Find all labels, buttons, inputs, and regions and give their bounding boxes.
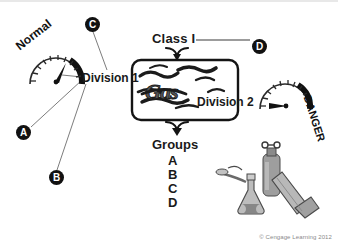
group-letter-a: A [168, 154, 177, 167]
groups-brace-arrow [172, 128, 182, 136]
erlenmeyer-flask-icon [216, 166, 264, 214]
group-letter-c: C [168, 182, 177, 195]
leader-lines [31, 29, 107, 170]
group-letter-b: B [168, 168, 177, 181]
hazardous-location-diagram: Gas [0, 0, 338, 245]
groups-brace-bottom [166, 122, 188, 129]
normal-gauge [30, 55, 82, 84]
label-class-i: Class I [152, 32, 195, 45]
leader-line-b [57, 84, 86, 170]
label-division-2: Division 2 [197, 96, 254, 108]
callout-marker-a[interactable]: A [16, 125, 31, 140]
normal-gauge-hub [54, 80, 59, 85]
danger-gauge [260, 80, 310, 109]
danger-gauge-hub [284, 104, 289, 109]
label-division-1: Division 1 [82, 72, 139, 84]
leader-line-c [92, 29, 107, 70]
group-letter-d: D [168, 196, 177, 209]
label-groups-heading: Groups [152, 138, 198, 151]
callout-marker-b[interactable]: B [49, 170, 64, 185]
copyright-notice: © Cengage Learning 2012 [259, 234, 332, 240]
callout-marker-c[interactable]: C [85, 17, 100, 32]
bunsen-burner-icon [272, 172, 319, 218]
callout-marker-d[interactable]: D [252, 39, 267, 54]
